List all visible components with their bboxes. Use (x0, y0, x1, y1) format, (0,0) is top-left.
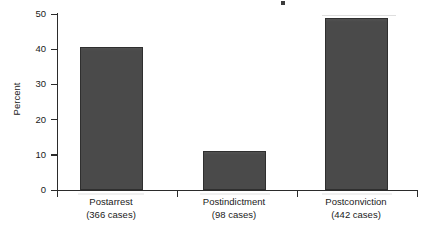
y-tick-label-30: 30 (6, 79, 46, 89)
scan-artifact-1 (78, 193, 144, 195)
y-tick-50 (51, 14, 58, 15)
x-label-postarrest: Postarrest (366 cases) (51, 196, 171, 221)
y-tick-10 (51, 154, 58, 155)
x-label-postconviction: Postconviction (442 cases) (296, 196, 416, 221)
y-tick-label-50: 50 (6, 9, 46, 19)
scan-artifact-3 (322, 193, 392, 195)
x-tick-end (417, 191, 418, 197)
y-tick-20 (51, 119, 58, 120)
title-artifact-rule (322, 15, 396, 16)
y-axis-line (57, 13, 58, 191)
x-label-postarrest-name: Postarrest (89, 196, 132, 207)
bar-postarrest[interactable] (80, 47, 143, 190)
y-tick-label-40: 40 (6, 44, 46, 54)
y-tick-label-20: 20 (6, 115, 46, 125)
x-label-postconviction-cases: (442 cases) (296, 209, 416, 222)
y-tick-30 (51, 84, 58, 85)
x-label-postindictment-name: Postindictment (203, 196, 265, 207)
y-tick-label-0: 0 (6, 185, 46, 195)
x-label-postarrest-cases: (366 cases) (51, 209, 171, 222)
scan-artifact-2 (200, 193, 270, 195)
bar-postconviction[interactable] (325, 18, 388, 190)
y-tick-40 (51, 49, 58, 50)
bar-chart: Percent 50 40 30 20 10 0 Postarrest (366… (0, 0, 427, 232)
x-label-postindictment-cases: (98 cases) (174, 209, 294, 222)
title-artifact-mark (281, 1, 285, 5)
x-label-postindictment: Postindictment (98 cases) (174, 196, 294, 221)
y-tick-label-10: 10 (6, 150, 46, 160)
x-label-postconviction-name: Postconviction (325, 196, 386, 207)
bar-postindictment[interactable] (203, 151, 266, 190)
